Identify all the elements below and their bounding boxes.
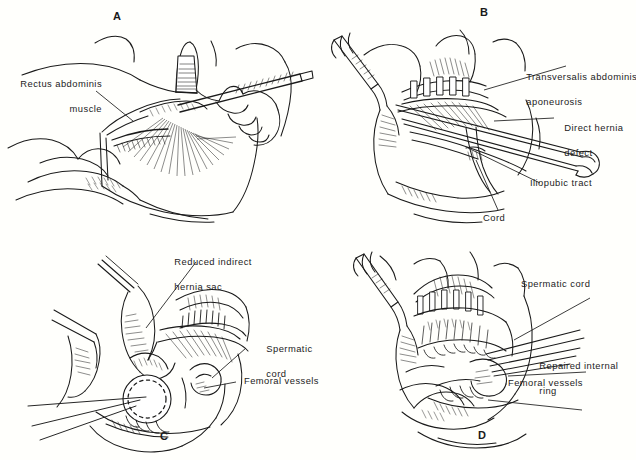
label-reduced-indirect-hernia-sac: Reduced indirect hernia sac [156, 244, 276, 306]
label-line-1: Repaired internal [539, 360, 618, 371]
panel-c: C [0, 230, 318, 460]
panel-d-illustration [318, 230, 636, 460]
surgical-figure: A [0, 0, 636, 460]
panel-a: A [0, 0, 318, 230]
label-line-1: Direct hernia [564, 122, 623, 133]
label-line-1: Rectus abdominis [20, 78, 102, 89]
leader-line-spermatic-cord [514, 298, 590, 340]
label-line-2: defect [564, 147, 592, 158]
panel-b: B [318, 0, 636, 230]
label-spermatic-cord: Spermatic cord [521, 278, 631, 290]
label-rectus-abdominis-muscle: Rectus abdominis muscle [2, 66, 102, 128]
label-line-1: Transversalis abdominis [526, 71, 636, 82]
label-cord: Cord [483, 212, 533, 224]
label-femoral-vessels: Femoral vessels [508, 377, 618, 389]
label-line-2: muscle [70, 103, 102, 114]
label-direct-hernia-defect: Direct hernia defect [546, 110, 636, 172]
panel-d: D [318, 230, 636, 460]
label-femoral-vessels: Femoral vessels [244, 375, 324, 387]
label-line-2: hernia sac [174, 281, 222, 292]
leader-line-cord [476, 160, 498, 210]
label-iliopubic-tract: Iliopubic tract [530, 177, 630, 189]
label-line-2: aponeurosis [526, 96, 582, 107]
label-line-1: Reduced indirect [174, 256, 252, 267]
label-line-1: Spermatic [266, 343, 312, 354]
